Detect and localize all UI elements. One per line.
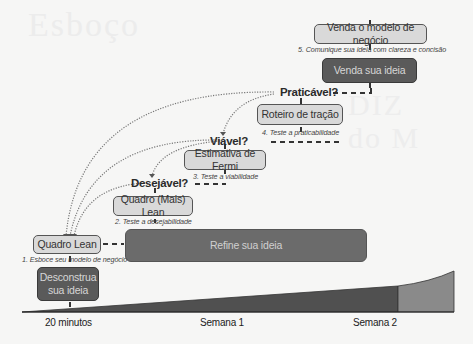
box-quadro-lean: Quadro Lean <box>33 235 101 254</box>
timeline-tick-semana-2: Semana 2 <box>353 317 397 328</box>
caption-step-2: 2. Teste a desejabilidade <box>115 217 192 226</box>
caption-step-1: 1. Esboce seu modelo de negócio <box>22 255 127 264</box>
box-label: Desconstrua sua ideia <box>40 271 97 296</box>
box-venda-sua-ideia: Venda sua ideia <box>322 58 417 83</box>
timeline-wedge-light <box>398 271 454 312</box>
box-label: Venda sua ideia <box>334 64 406 77</box>
lean-progression-diagram: Esboço DIZdo M <box>0 0 473 344</box>
box-refine-sua-ideia: Refine sua ideia <box>125 229 367 262</box>
question-praticavel: Praticável? <box>280 86 338 98</box>
box-label: Refine sua ideia <box>210 239 282 252</box>
question-viavel: Viável? <box>210 135 248 147</box>
box-desconstrua-sua-ideia: Desconstrua sua ideia <box>37 267 99 301</box>
caption-step-5: 5. Comunique sua ideia com clareza e con… <box>298 45 446 54</box>
timeline-tick-20-minutos: 20 minutos <box>45 317 92 328</box>
box-label: Roteiro de tração <box>261 108 338 121</box>
box-label: Quadro Lean <box>37 238 96 251</box>
timeline-tick-semana-1: Semana 1 <box>200 317 244 328</box>
question-desejavel: Desejável? <box>131 177 188 189</box>
box-estimativa-de-fermi: Estimativa de Fermi <box>184 150 266 170</box>
box-label: Estimativa de Fermi <box>185 147 265 172</box>
caption-step-3: 3. Teste a viabilidade <box>193 172 258 181</box>
box-label: Quadro (Mais) Lean <box>114 193 192 218</box>
box-quadro-mais-lean: Quadro (Mais) Lean <box>113 196 193 216</box>
box-roteiro-de-tracao: Roteiro de tração <box>257 104 343 125</box>
box-label: Venda o modelo de negócio <box>315 21 426 46</box>
caption-step-4: 4. Teste a praticabilidade <box>262 128 339 137</box>
box-venda-modelo-de-negocio: Venda o modelo de negócio <box>314 24 427 44</box>
